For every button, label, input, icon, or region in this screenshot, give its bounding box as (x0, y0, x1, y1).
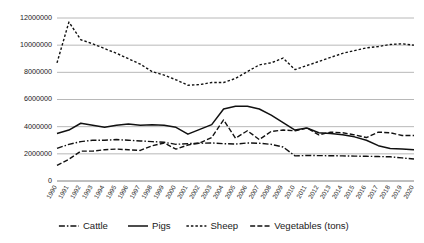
y-axis-tick-label: 2000000 (24, 149, 52, 158)
x-axis-tick-label: 2016 (354, 184, 367, 200)
x-axis-tick-label: 1999 (152, 184, 165, 200)
legend-label-pigs: Pigs (152, 220, 171, 231)
x-axis-tick-label: 2013 (318, 184, 331, 200)
x-axis-tick-label: 1992 (68, 184, 81, 200)
x-axis-tick-label: 1993 (80, 184, 93, 200)
x-axis-tick-label: 2012 (306, 184, 319, 200)
x-axis-tick-label: 2004 (211, 184, 224, 200)
y-axis-tick-label: 6000000 (24, 94, 52, 103)
x-axis-labels-group: 1990199119921993199419951996199719981999… (45, 184, 415, 200)
x-axis-tick-label: 2007 (247, 184, 260, 200)
x-axis-tick-label: 1998 (140, 184, 153, 200)
y-axis-labels-group: 0200000040000006000000800000010000000120… (20, 13, 52, 185)
series-line-sheep (57, 22, 414, 85)
x-axis-tick-label: 2002 (187, 184, 200, 200)
legend-group: CattlePigsSheepVegetables (tons) (59, 220, 349, 231)
chart-canvas: 0200000040000006000000800000010000000120… (0, 0, 424, 243)
y-axis-tick-label: 0 (48, 176, 52, 185)
x-axis-tick-label: 2008 (259, 184, 272, 200)
legend-label-cattle: Cattle (83, 220, 108, 231)
x-axis-tick-label: 1995 (104, 184, 117, 200)
legend-label-sheep: Sheep (210, 220, 238, 231)
line-chart: 0200000040000006000000800000010000000120… (0, 0, 424, 243)
x-axis-tick-label: 1997 (128, 184, 141, 200)
x-axis-tick-label: 1996 (116, 184, 129, 200)
y-axis-tick-label: 8000000 (24, 67, 52, 76)
y-axis-tick-label: 4000000 (24, 122, 52, 131)
x-axis-tick-label: 2009 (271, 184, 284, 200)
x-axis-tick-label: 2006 (235, 184, 248, 200)
x-axis-tick-label: 2000 (164, 184, 177, 200)
x-axis-tick-label: 1990 (45, 184, 58, 200)
legend-label-vegetables-tons: Vegetables (tons) (274, 220, 349, 231)
series-group (57, 22, 414, 165)
x-axis-tick-label: 2003 (199, 184, 212, 200)
x-axis-tick-label: 2019 (390, 184, 403, 200)
x-axis-tick-label: 2001 (176, 184, 189, 200)
x-axis-tick-label: 2005 (223, 184, 236, 200)
x-axis-tick-label: 1994 (92, 184, 105, 200)
series-line-pigs (57, 106, 414, 149)
x-axis-tick-label: 2014 (330, 184, 343, 200)
x-axis-tick-label: 1991 (57, 184, 70, 200)
y-axis-tick-label: 10000000 (20, 40, 52, 49)
x-axis-tick-label: 2020 (402, 184, 415, 200)
x-axis-tick-label: 2018 (378, 184, 391, 200)
x-axis-tick-label: 2015 (342, 184, 355, 200)
y-axis-tick-label: 12000000 (20, 13, 52, 22)
x-axis-tick-label: 2017 (366, 184, 379, 200)
x-axis-tick-label: 2010 (283, 184, 296, 200)
